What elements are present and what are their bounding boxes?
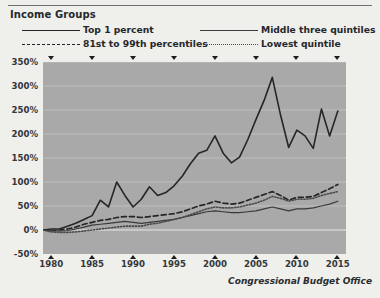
y-axis-tick-label: 50% (0, 201, 38, 211)
legend-title: Income Groups (10, 9, 96, 20)
series-svg (43, 62, 346, 254)
legend-item-label: Middle three quintiles (261, 24, 375, 35)
x-axis-tick-marker-top (48, 56, 54, 60)
x-axis-tick-label: 1995 (154, 259, 194, 269)
x-axis-tick-marker-bottom (89, 255, 95, 259)
header-divider (8, 5, 372, 6)
y-axis-tick-label: 150% (0, 153, 38, 163)
x-axis-tick-marker-top (253, 56, 259, 60)
legend-item-label: Lowest quintile (261, 38, 341, 49)
y-axis-tick-label: -50% (0, 249, 38, 259)
x-axis-tick-label: 2005 (236, 259, 276, 269)
x-axis-tick-label: 1980 (31, 259, 71, 269)
x-axis-tick-label: 2010 (277, 259, 317, 269)
legend-line-swatch-icon (200, 39, 258, 49)
y-axis-tick-label: 100% (0, 177, 38, 187)
y-axis-tick-label: 200% (0, 129, 38, 139)
legend-line-swatch-icon (22, 25, 80, 35)
x-axis-tick-marker-bottom (253, 255, 259, 259)
x-axis-tick-marker-top (293, 56, 299, 60)
source-credit: Congressional Budget Office (228, 276, 372, 286)
legend-item[interactable]: Top 1 percent (22, 24, 154, 35)
y-axis-tick-label: 350% (0, 57, 38, 67)
chart-page: Income Groups Top 1 percent81st to 99th … (0, 0, 380, 298)
legend-line-swatch-icon (22, 39, 80, 49)
series-line (43, 77, 338, 230)
x-axis-tick-marker-bottom (171, 255, 177, 259)
x-axis-tick-label: 1990 (113, 259, 153, 269)
x-axis-tick-marker-top (89, 56, 95, 60)
chart-legend: Top 1 percent81st to 99th percentilesMid… (10, 24, 372, 54)
x-axis-tick-marker-top (130, 56, 136, 60)
legend-line-swatch-icon (200, 25, 258, 35)
y-axis-tick-label: 300% (0, 81, 38, 91)
series-line (43, 184, 338, 230)
plot-canvas (43, 62, 346, 254)
x-axis-tick-marker-bottom (334, 255, 340, 259)
x-axis-tick-marker-top (212, 56, 218, 60)
x-axis-tick-marker-bottom (212, 255, 218, 259)
legend-item-label: 81st to 99th percentiles (83, 38, 208, 49)
y-axis-tick-label: 250% (0, 105, 38, 115)
x-axis-tick-label: 2000 (195, 259, 235, 269)
legend-item[interactable]: Middle three quintiles (200, 24, 375, 35)
x-axis-tick-label: 2015 (318, 259, 358, 269)
legend-item[interactable]: Lowest quintile (200, 38, 341, 49)
plot-area (43, 62, 346, 254)
x-axis-tick-marker-top (171, 56, 177, 60)
x-axis-tick-marker-top (334, 56, 340, 60)
x-axis-tick-marker-bottom (48, 255, 54, 259)
x-axis-tick-label: 1985 (72, 259, 112, 269)
x-axis-tick-marker-bottom (130, 255, 136, 259)
x-axis-tick-marker-bottom (293, 255, 299, 259)
legend-item[interactable]: 81st to 99th percentiles (22, 38, 208, 49)
legend-item-label: Top 1 percent (83, 24, 154, 35)
y-axis-tick-label: 0% (0, 225, 38, 235)
